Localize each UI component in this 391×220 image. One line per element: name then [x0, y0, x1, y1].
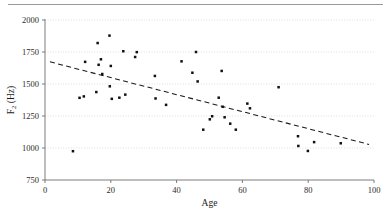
data-point-12	[111, 98, 114, 101]
data-point-18	[154, 75, 157, 78]
xtick-label-80: 80	[304, 185, 313, 195]
ytick-label-1250: 1250	[22, 111, 39, 121]
xtick-label-0: 0	[43, 185, 47, 195]
data-point-15	[124, 93, 127, 96]
tick-marks-group	[42, 20, 374, 183]
data-point-14	[122, 50, 125, 53]
data-point-6	[97, 64, 100, 67]
data-point-31	[223, 116, 226, 119]
data-point-16	[134, 56, 137, 59]
chart-figure: 75010001250150017502000020406080100 AgeF…	[0, 0, 391, 220]
xtick-label-60: 60	[238, 185, 247, 195]
data-point-19	[154, 97, 157, 100]
data-point-29	[220, 70, 223, 73]
data-point-24	[196, 80, 199, 83]
ytick-label-1750: 1750	[22, 47, 39, 57]
data-point-5	[96, 42, 99, 45]
data-point-23	[195, 51, 198, 54]
data-point-2	[83, 95, 86, 98]
xtick-label-40: 40	[172, 185, 181, 195]
data-point-30	[221, 106, 224, 109]
y-axis-title: F2 (Hz)	[6, 86, 17, 114]
data-point-37	[297, 135, 300, 138]
data-point-33	[235, 128, 238, 131]
data-point-41	[340, 142, 343, 145]
data-point-28	[217, 96, 220, 99]
ytick-label-1000: 1000	[22, 143, 39, 153]
data-point-34	[246, 102, 249, 105]
ytick-label-1500: 1500	[22, 79, 39, 89]
data-point-38	[297, 145, 300, 148]
data-point-26	[209, 118, 212, 121]
data-point-1	[78, 97, 81, 100]
trend-line-group	[50, 62, 369, 145]
data-point-21	[180, 60, 183, 63]
x-axis-title: Age	[202, 198, 218, 208]
gridlines-group	[45, 20, 374, 148]
ytick-label-2000: 2000	[22, 15, 39, 25]
data-point-36	[277, 86, 280, 89]
data-point-4	[95, 91, 98, 94]
data-point-27	[211, 115, 214, 118]
data-point-40	[313, 141, 316, 144]
data-point-13	[118, 96, 121, 99]
scatter-plot-canvas: 75010001250150017502000020406080100 AgeF…	[0, 0, 391, 220]
data-point-39	[307, 150, 310, 153]
data-point-17	[136, 51, 139, 54]
data-point-10	[109, 85, 112, 88]
data-point-11	[110, 65, 113, 68]
data-point-35	[249, 107, 252, 110]
regression-trend-line	[50, 62, 369, 145]
xtick-label-20: 20	[107, 185, 116, 195]
data-point-3	[84, 61, 87, 64]
data-point-8	[101, 73, 104, 76]
tick-labels-group: 75010001250150017502000020406080100	[22, 15, 380, 195]
data-point-32	[229, 122, 232, 125]
data-point-0	[72, 150, 75, 153]
data-point-22	[191, 71, 194, 74]
axes-group	[45, 19, 374, 180]
data-point-9	[108, 34, 111, 37]
ytick-label-750: 750	[26, 175, 39, 185]
data-point-7	[100, 58, 103, 61]
data-point-20	[165, 104, 168, 107]
xtick-label-100: 100	[368, 185, 381, 195]
data-point-25	[202, 128, 205, 131]
